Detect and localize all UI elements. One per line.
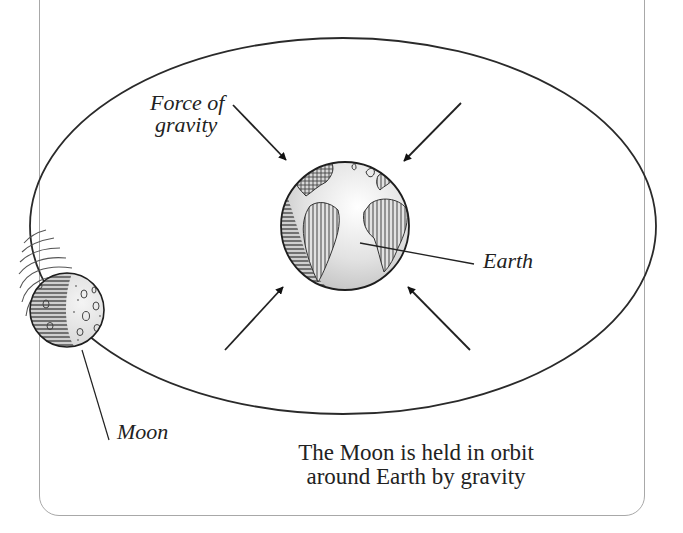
diagram-caption: The Moon is held in orbit around Earth b… — [236, 441, 596, 489]
moon-leader-line — [82, 350, 109, 440]
force-label-line2: gravity — [155, 114, 224, 136]
earth-globe — [260, 160, 409, 293]
moon-label: Moon — [117, 421, 168, 443]
earth-label: Earth — [483, 250, 533, 272]
caption-line-2: around Earth by gravity — [236, 465, 596, 489]
force-label-line1: Force of — [150, 92, 224, 114]
force-arrow-bottom-right — [408, 287, 470, 350]
force-arrow-bottom-left — [225, 287, 283, 350]
force-of-gravity-label: Force of gravity — [150, 92, 224, 136]
caption-line-1: The Moon is held in orbit — [236, 441, 596, 465]
force-arrow-top-left — [233, 105, 286, 160]
force-arrow-top-right — [404, 103, 461, 161]
